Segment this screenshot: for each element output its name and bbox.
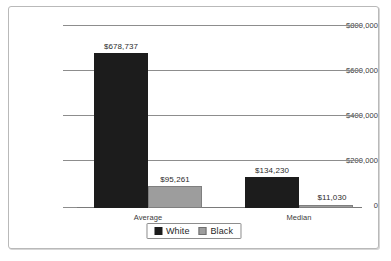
x-axis-category-label-median: Median	[259, 213, 339, 222]
bar-black-average[interactable]	[148, 186, 202, 208]
tick-mark-600000	[63, 70, 77, 71]
tick-mark-800000	[63, 25, 77, 26]
bar-value-label-white-median: $134,230	[232, 166, 312, 175]
legend-label-black: Black	[211, 226, 234, 236]
bar-black-median[interactable]	[299, 205, 353, 208]
bar-value-label-white-average: $678,737	[81, 42, 161, 51]
legend-item-black[interactable]: Black	[199, 226, 234, 236]
chart-legend: White Black	[146, 223, 241, 239]
legend-label-white: White	[166, 226, 190, 236]
plot-area: $678,737 $95,261 Average $134,230 $11,03…	[77, 25, 362, 208]
bar-white-median[interactable]	[245, 177, 299, 208]
legend-swatch-white-icon	[154, 227, 162, 235]
bar-white-average[interactable]	[94, 53, 148, 208]
bar-value-label-black-median: $11,030	[292, 193, 372, 202]
legend-swatch-black-icon	[199, 227, 207, 235]
tick-mark-400000	[63, 115, 77, 116]
tick-mark-0	[63, 207, 77, 208]
x-axis-category-label-average: Average	[108, 213, 188, 222]
chart-container: $800,000 $600,000 $400,000 $200,000 0 $6…	[8, 6, 379, 249]
gridline-800000	[77, 25, 362, 26]
tick-mark-200000	[63, 160, 77, 161]
legend-item-white[interactable]: White	[154, 226, 190, 236]
bar-value-label-black-average: $95,261	[135, 175, 215, 184]
